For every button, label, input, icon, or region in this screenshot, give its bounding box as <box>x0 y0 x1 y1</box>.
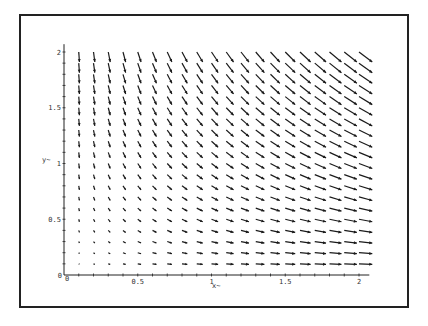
x-tick-label: 1.5 <box>279 278 292 286</box>
vector-field-plot: 0.511.520.511.5200 <box>0 0 428 326</box>
svg-text:0: 0 <box>58 272 62 280</box>
y-tick-label: 0.5 <box>48 216 61 224</box>
y-tick-label: 1 <box>57 160 61 168</box>
y-axis-label: y~ <box>42 156 50 164</box>
x-tick-label: 2 <box>357 278 361 286</box>
svg-text:0: 0 <box>65 275 69 283</box>
y-tick-label: 1.5 <box>48 104 61 112</box>
y-tick-label: 2 <box>57 49 61 57</box>
x-tick-label: 0.5 <box>131 278 144 286</box>
x-axis-label: x~ <box>212 282 220 290</box>
